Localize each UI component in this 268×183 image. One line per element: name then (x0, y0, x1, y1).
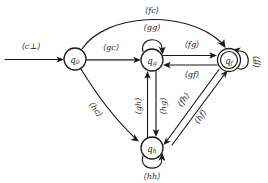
label-start: ⟨c⊥⟩ (22, 41, 41, 51)
transition-start (5, 56, 64, 62)
transition-gf (163, 62, 217, 68)
state-qg[interactable]: qg (141, 49, 163, 71)
label-gf: ⟨gf⟩ (185, 69, 200, 79)
state-qf[interactable]: qf (218, 49, 241, 72)
edge-fh-path (167, 70, 219, 141)
label-gc: ⟨gc⟩ (103, 42, 119, 52)
arrowhead-fc (217, 39, 226, 48)
label-hg: ⟨hg⟩ (158, 98, 168, 115)
transition-fh (164, 70, 220, 146)
state-qh[interactable]: qh (141, 137, 163, 159)
label-hc: ⟨hc⟩ (87, 100, 105, 119)
label-hf: ⟨hf⟩ (192, 108, 209, 126)
label-fc: ⟨fc⟩ (145, 5, 159, 15)
label-fh: ⟨fh⟩ (175, 91, 192, 109)
label-gg: ⟨gg⟩ (144, 22, 161, 32)
transition-fg (163, 52, 217, 58)
label-ff: ⟨ff⟩ (251, 56, 261, 68)
arrowhead-fh (164, 137, 172, 145)
label-fg: ⟨fg⟩ (185, 39, 200, 49)
state-q0[interactable]: q0 (64, 48, 86, 70)
automaton-diagram: q0 qg qf qh ⟨c⊥⟩ ⟨fc⟩ ⟨gc⟩ ⟨hc⟩ ⟨gg⟩ ⟨fg… (0, 0, 268, 183)
transition-gc (86, 57, 141, 63)
label-gh: ⟨gh⟩ (133, 98, 143, 115)
transition-gh (144, 71, 150, 137)
automaton-svg: q0 qg qf qh ⟨c⊥⟩ ⟨fc⟩ ⟨gc⟩ ⟨hc⟩ ⟨gg⟩ ⟨fg… (0, 0, 268, 183)
label-hh: ⟨hh⟩ (144, 171, 161, 181)
